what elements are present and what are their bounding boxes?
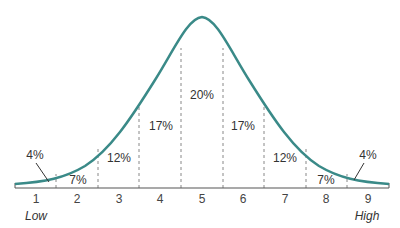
value-label-2: 7% [69,173,86,187]
value-label-7: 12% [273,151,297,165]
x-tick-7: 7 [282,192,289,206]
high-label: High [355,209,380,223]
pointer-line-right [354,163,364,180]
value-label-4: 17% [149,119,173,133]
x-tick-9: 9 [365,192,372,206]
x-tick-6: 6 [240,192,247,206]
x-tick-3: 3 [116,192,123,206]
x-tick-5: 5 [199,192,206,206]
band-dividers [56,48,347,188]
normal-distribution-chart: 4% 7% 12% 17% 20% 17% 12% 7% 4% 1 2 3 4 … [0,0,400,228]
x-tick-2: 2 [74,192,81,206]
x-tick-1: 1 [33,192,40,206]
value-label-3: 12% [107,151,131,165]
pointer-line-left [36,163,49,182]
x-tick-8: 8 [323,192,330,206]
x-tick-4: 4 [157,192,164,206]
value-label-6: 17% [231,119,255,133]
low-label: Low [25,209,47,223]
value-label-8: 7% [317,173,334,187]
value-label-9: 4% [359,148,376,162]
value-label-1: 4% [26,148,43,162]
value-label-5: 20% [190,88,214,102]
